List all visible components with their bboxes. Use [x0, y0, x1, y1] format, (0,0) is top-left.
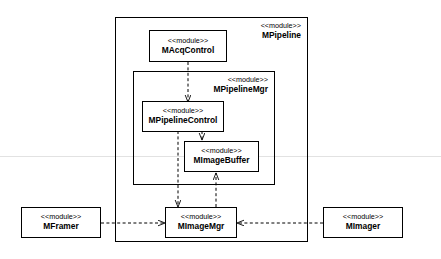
module-mimagebuffer-name: MImageBuffer [194, 156, 250, 166]
module-macqcontrol-name: MAcqControl [162, 46, 215, 56]
module-mimagebuffer[interactable]: <<module>> MImageBuffer [184, 141, 259, 172]
module-macqcontrol-stereotype: <<module>> [168, 37, 208, 45]
module-mframer[interactable]: <<module>> MFramer [21, 207, 101, 238]
module-mimager-stereotype: <<module>> [343, 213, 383, 221]
module-mimagemgr-name: MImageMgr [178, 222, 225, 232]
module-mframer-name: MFramer [43, 222, 78, 232]
module-mimagebuffer-stereotype: <<module>> [201, 147, 241, 155]
module-macqcontrol[interactable]: <<module>> MAcqControl [149, 30, 227, 62]
module-mimager[interactable]: <<module>> MImager [323, 207, 403, 238]
module-mpipelinecontrol-stereotype: <<module>> [163, 107, 203, 115]
module-mimager-name: MImager [346, 222, 380, 232]
module-mpipelinecontrol[interactable]: <<module>> MPipelineControl [142, 101, 224, 132]
module-mframer-stereotype: <<module>> [41, 213, 81, 221]
diagram-canvas: <<module>> MPipeline <<module>> MPipelin… [0, 0, 441, 259]
module-mpipelinecontrol-name: MPipelineControl [149, 116, 218, 126]
module-mimagemgr[interactable]: <<module>> MImageMgr [165, 207, 237, 238]
module-mimagemgr-stereotype: <<module>> [181, 213, 221, 221]
